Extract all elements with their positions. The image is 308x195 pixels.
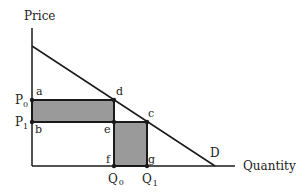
x-axis-label: Quantity: [243, 159, 296, 173]
point-f: [112, 164, 116, 168]
quantity-level-q0: Q0: [108, 172, 124, 187]
quantity-level-q1: Q1: [142, 172, 158, 188]
demand-diagram: Price Quantity D P0 P1 Q0 Q1 a b d e c f…: [0, 0, 308, 195]
y-axis-label: Price: [24, 9, 55, 23]
label-f: f: [106, 153, 111, 166]
point-c: [145, 120, 149, 124]
label-e: e: [104, 123, 111, 136]
label-d: d: [116, 85, 123, 98]
label-b: b: [35, 123, 42, 136]
shaded-region-efgc: [114, 122, 147, 166]
label-a: a: [36, 85, 43, 98]
point-e: [112, 120, 116, 124]
shaded-region-abed: [32, 100, 114, 122]
label-c: c: [148, 107, 154, 120]
point-a: [30, 98, 34, 102]
point-d: [112, 98, 116, 102]
curve-label-d: D: [210, 146, 220, 160]
price-level-p0: P0: [15, 93, 28, 109]
label-g: g: [148, 153, 155, 166]
price-level-p1: P1: [15, 115, 28, 131]
point-b: [30, 120, 34, 124]
